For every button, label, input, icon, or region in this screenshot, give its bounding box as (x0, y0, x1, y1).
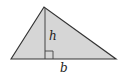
base-label: b (60, 61, 68, 75)
triangle (11, 7, 116, 59)
height-label: h (49, 29, 57, 43)
triangle-diagram: h b (0, 0, 122, 75)
